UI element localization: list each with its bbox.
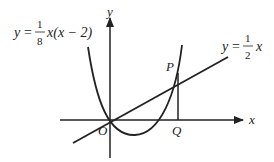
point-p-label: P — [165, 59, 174, 74]
svg-text:1: 1 — [37, 18, 43, 30]
line-equation: y = 1 2 x — [220, 32, 263, 61]
svg-text:8: 8 — [37, 35, 43, 47]
svg-text:y: y — [12, 25, 21, 40]
svg-text:=: = — [24, 25, 32, 40]
svg-text:x(x − 2): x(x − 2) — [46, 25, 93, 41]
svg-text:y: y — [220, 39, 229, 54]
x-axis-label: x — [248, 112, 255, 127]
svg-text:x: x — [255, 39, 263, 54]
y-axis-label: y — [105, 4, 113, 19]
parabola-equation: y = 1 8 x(x − 2) — [12, 18, 93, 47]
svg-text:2: 2 — [245, 49, 251, 61]
coordinate-diagram: y x O P Q y = 1 8 x(x − 2) y = 1 2 x — [0, 0, 274, 162]
point-q-label: Q — [172, 123, 182, 138]
line-curve — [73, 57, 228, 143]
point-o-label: O — [98, 123, 108, 138]
svg-text:1: 1 — [245, 32, 251, 44]
svg-text:=: = — [232, 39, 240, 54]
